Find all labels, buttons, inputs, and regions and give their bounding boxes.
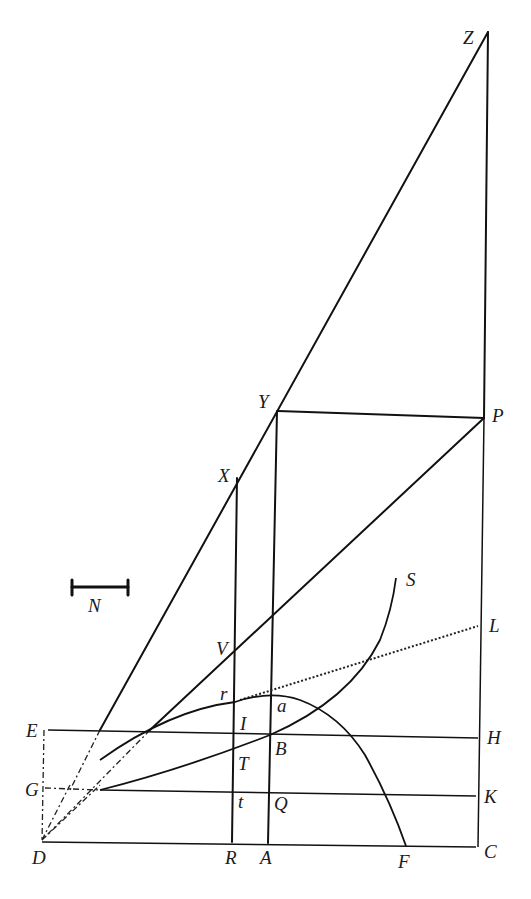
line-X-R <box>232 478 237 842</box>
label-K: K <box>483 786 498 807</box>
label-T: T <box>238 753 250 774</box>
label-C: C <box>484 841 497 862</box>
ray-D-2 <box>42 785 70 840</box>
label-Z: Z <box>463 27 474 48</box>
label-E: E <box>25 720 38 741</box>
label-N: N <box>87 595 102 616</box>
label-V: V <box>216 638 230 659</box>
label-r: r <box>220 683 228 704</box>
label-R: R <box>224 847 237 868</box>
line-P-C <box>478 418 484 847</box>
label-L: L <box>488 615 500 636</box>
label-G: G <box>25 779 39 800</box>
line-Y-A <box>268 411 277 843</box>
label-H: H <box>486 727 502 748</box>
label-A: A <box>258 847 272 868</box>
label-I: I <box>239 713 248 734</box>
scale-bar-N <box>72 580 128 595</box>
line-base-continuation <box>70 730 100 790</box>
label-S: S <box>406 569 416 590</box>
line-P-D-dashed <box>42 730 150 840</box>
label-X: X <box>217 465 231 486</box>
label-B: B <box>275 738 287 759</box>
label-P: P <box>491 405 504 426</box>
line-P-D <box>150 418 484 730</box>
line-r-L <box>240 626 478 700</box>
line-Y-P <box>278 411 484 418</box>
line-D-C <box>42 842 476 847</box>
label-F: F <box>397 851 410 872</box>
line-Z-to-base <box>100 32 488 730</box>
label-a: a <box>277 695 287 716</box>
label-Q: Q <box>274 793 288 814</box>
label-t: t <box>238 791 244 812</box>
curve-to-F <box>100 695 406 846</box>
geometric-diagram: Z Y P X N S V L r a E I B H T G t Q K D … <box>0 0 531 899</box>
label-D: D <box>31 847 46 868</box>
label-Y: Y <box>258 391 271 412</box>
line-Z-C <box>484 32 488 418</box>
line-E-D <box>42 730 44 842</box>
line-G-K <box>45 788 100 790</box>
line-G-K-solid <box>100 790 476 796</box>
